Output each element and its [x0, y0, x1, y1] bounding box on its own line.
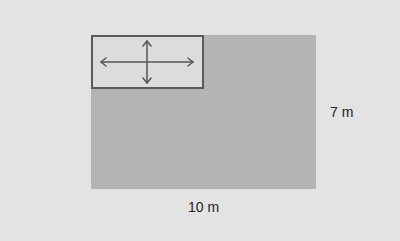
width-label: 10 m	[188, 199, 219, 215]
height-label: 7 m	[330, 104, 353, 120]
move-arrows-icon	[93, 37, 202, 87]
small-rectangle[interactable]	[91, 35, 204, 89]
